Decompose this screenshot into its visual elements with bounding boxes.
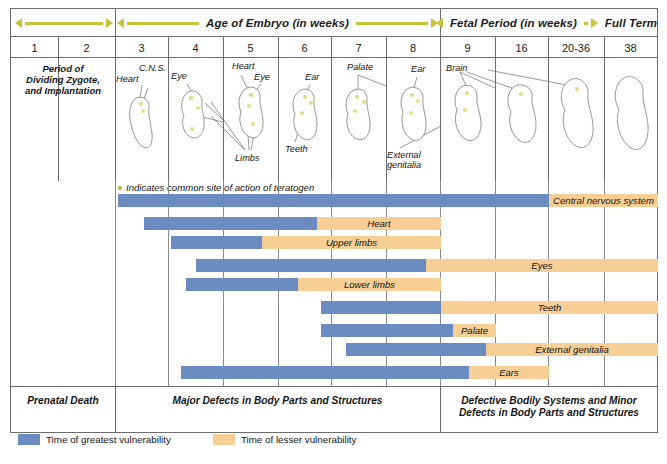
zygote-period-arrow [15,9,113,37]
bar-segment-greatest [346,343,486,356]
fetus-week-9-figure [440,58,495,181]
week-number-row: 1 2 3 4 5 6 7 8 9 16 20-36 38 [11,37,657,58]
arrow-head-right-icon [106,18,113,28]
full-term-label: Full Term [601,17,661,29]
week-label-16: 16 [495,37,548,58]
fetus-week-20-36-figure [548,58,604,181]
arrow-line [584,22,588,25]
bar-row-ears: Ears [11,366,659,379]
embryo-week-7-figure [331,58,386,181]
chart-frame: Age of Embryo (in weeks) Fetal Period (i… [10,8,658,433]
label-palate: Palate [347,62,373,72]
arrow-head-right-icon [591,18,598,28]
label-eye: Eye [171,71,187,81]
label-heart: Heart [116,74,138,84]
bar-label-teeth: Teeth [441,301,658,314]
period-band: Age of Embryo (in weeks) Fetal Period (i… [11,9,657,37]
outcome-defective-systems: Defective Bodily Systems and Minor Defec… [441,387,657,433]
critical-periods-chart: Age of Embryo (in weeks) Fetal Period (i… [0,0,667,464]
bar-label-lower-limbs: Lower limbs [298,278,441,291]
label-ear: Ear [305,72,319,82]
bar-label-palate: Palate [453,324,496,337]
embryo-week-5: Heart Eye Limbs [223,58,278,181]
bar-segment-greatest [321,324,453,337]
label-teeth: Teeth [285,144,308,154]
bar-row-palate: Palate [11,324,659,337]
embryo-period-label: Age of Embryo (in weeks) [202,17,353,29]
outcome-prenatal-death: Prenatal Death [11,387,115,433]
embryo-week-6: Ear Teeth [278,58,331,181]
label-external-genitalia: External genitalia [387,150,439,170]
legend-label-greatest: Time of greatest vulnerability [46,434,171,445]
bar-row-teeth: Teeth [11,301,659,314]
embryo-illustration-row: Period of Dividing Zygote, and Implantat… [11,58,657,181]
week-label-4: 4 [168,37,223,58]
week-label-9: 9 [440,37,495,58]
bar-row-heart: Heart [11,217,659,230]
arrow-head-left-icon [117,18,124,28]
bar-label-upper-limbs: Upper limbs [262,236,441,249]
arrow-head-left-icon [15,18,22,28]
bar-row-eyes: Eyes [11,259,659,272]
bar-label-heart: Heart [317,217,441,230]
bar-row-upper-limbs: Upper limbs [11,236,659,249]
legend-item-greatest: Time of greatest vulnerability [18,434,171,445]
embryo-week-3: C.N.S. Heart [115,58,168,181]
fetus-week-38 [604,58,657,181]
week-label-8: 8 [386,37,440,58]
embryo-week-7: Palate [331,58,386,181]
week-label-1: 1 [11,37,58,58]
arrow-line [25,22,103,25]
arrow-head-left-icon [436,18,443,28]
legend-label-lesser: Time of lesser vulnerability [241,434,357,445]
week-label-20-36: 20-36 [548,37,604,58]
bar-segment-greatest [321,301,441,314]
zygote-title: Period of Dividing Zygote, and Implantat… [11,58,115,96]
week-label-6: 6 [278,37,331,58]
week-label-3: 3 [115,37,168,58]
bar-segment-greatest [196,259,426,272]
zygote-period-cell: Period of Dividing Zygote, and Implantat… [11,58,115,181]
embryo-week-8: Ear External genitalia [386,58,440,181]
bar-row-central-nervous-system: Central nervous system [11,194,659,207]
label-eye: Eye [254,72,270,82]
bar-label-ears: Ears [469,366,549,379]
bar-row-external-genitalia: External genitalia [11,343,659,356]
label-brain: Brain [446,63,467,73]
bar-row-lower-limbs: Lower limbs [11,278,659,291]
arrow-line [356,22,428,25]
chart-legend: Time of greatest vulnerability Time of l… [18,434,356,445]
legend-swatch-tan [213,434,235,445]
bar-segment-greatest [144,217,317,230]
bar-segment-greatest [181,366,469,379]
label-cns: C.N.S. [139,63,166,73]
label-ear: Ear [411,64,425,74]
bar-segment-greatest [186,278,298,291]
legend-swatch-blue [18,434,40,445]
bar-label-eyes: Eyes [426,259,658,272]
zygote-title-line1: Period of [11,63,115,74]
fetal-period-arrow: Fetal Period (in weeks) Full Term [442,9,655,37]
label-limbs: Limbs [235,153,260,163]
fetus-week-38-figure [604,58,657,181]
week-label-38: 38 [604,37,657,58]
week-label-2: 2 [58,37,115,58]
bar-label-external-genitalia: External genitalia [486,343,658,356]
outcome-label: Defective Bodily Systems and Minor Defec… [451,395,647,419]
zygote-title-line3: and Implantation [11,85,115,96]
bar-segment-greatest [171,236,262,249]
bar-segment-greatest [118,194,549,207]
label-heart: Heart [232,61,254,71]
bar-label-central-nervous-system: Central nervous system [549,194,658,207]
vulnerability-bar-chart: Central nervous system Heart Upper limbs… [11,181,657,386]
outcome-label: Major Defects in Body Parts and Structur… [172,395,382,407]
outcome-major-defects: Major Defects in Body Parts and Structur… [116,387,439,433]
embryo-period-arrow: Age of Embryo (in weeks) [117,9,438,37]
fetus-week-9: Brain [440,58,495,181]
fetus-week-20-36 [548,58,604,181]
week-label-5: 5 [223,37,278,58]
outcome-label: Prenatal Death [27,395,98,407]
arrow-line [127,22,199,25]
fetal-period-label: Fetal Period (in weeks) [446,17,581,29]
outcome-row: Prenatal Death Major Defects in Body Par… [11,386,657,432]
